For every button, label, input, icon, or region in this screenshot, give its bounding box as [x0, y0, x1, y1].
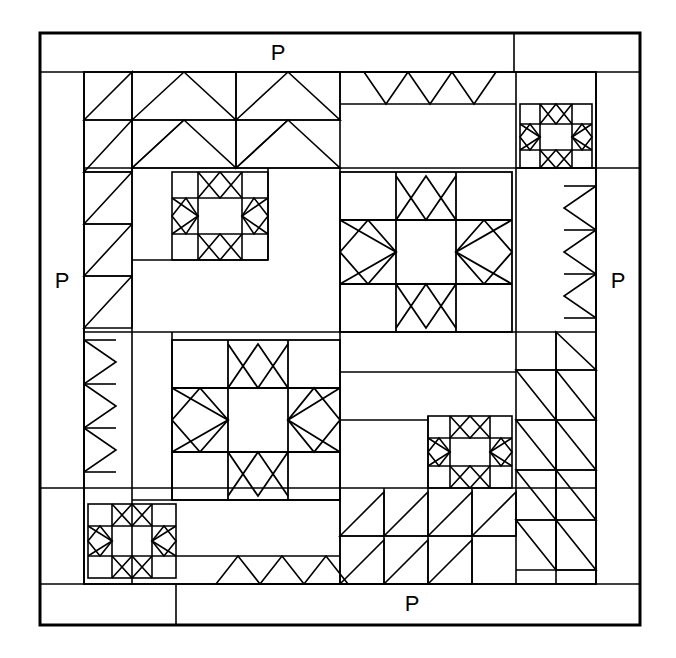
border-label-bottom: P [405, 591, 420, 616]
border-label-right: P [611, 268, 626, 293]
border-label-left: P [55, 268, 70, 293]
quilt-diagram: P P P P [0, 0, 676, 658]
border-label-top: P [271, 40, 286, 65]
quilt-diagram-root: P P P P [0, 0, 676, 658]
